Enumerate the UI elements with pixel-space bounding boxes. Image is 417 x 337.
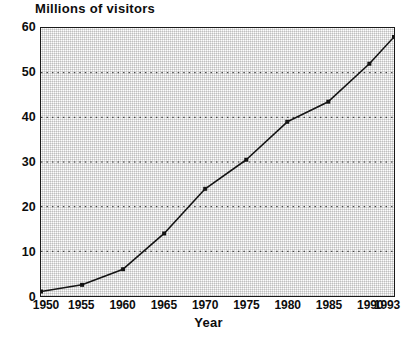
data-point-marker: [392, 35, 394, 39]
series-line: [41, 37, 394, 292]
y-axis-tick-label: 50: [22, 65, 36, 79]
x-axis-tick-label: 1993: [374, 298, 400, 312]
chart-figure: Millions of visitors 0102030405060 19501…: [0, 0, 417, 337]
plot-canvas: [41, 28, 394, 296]
x-axis-tick-label: 1980: [275, 298, 301, 312]
data-point-marker: [244, 158, 248, 162]
x-axis-tick-label: 1950: [33, 298, 59, 312]
data-point-marker: [162, 231, 166, 235]
data-point-marker: [203, 187, 207, 191]
x-axis-tick-label: 1970: [192, 298, 218, 312]
y-axis-tick-label: 10: [22, 245, 36, 259]
chart-title: Millions of visitors: [35, 1, 155, 16]
data-point-marker: [367, 62, 371, 66]
data-point-marker: [80, 283, 84, 287]
data-series-group: [41, 35, 394, 294]
y-axis-tick-label: 30: [22, 155, 36, 169]
data-point-marker: [285, 120, 289, 124]
x-axis-tick-label: 1960: [109, 298, 135, 312]
gridlines-group: [41, 73, 394, 252]
x-axis-tick-label: 1985: [316, 298, 342, 312]
x-axis-tick-label: 1955: [68, 298, 94, 312]
data-point-marker: [121, 267, 125, 271]
data-point-marker: [41, 290, 43, 294]
x-axis-tick-label: 1975: [233, 298, 259, 312]
y-axis-tick-label: 20: [22, 200, 36, 214]
data-point-marker: [326, 100, 330, 104]
y-axis-tick-labels: 0102030405060: [0, 0, 36, 337]
y-axis-tick-label: 60: [22, 20, 36, 34]
x-axis-tick-label: 1965: [151, 298, 177, 312]
y-axis-tick-label: 40: [22, 110, 36, 124]
x-axis-title: Year: [0, 315, 417, 330]
series-markers: [41, 35, 394, 294]
plot-area: [40, 27, 395, 297]
